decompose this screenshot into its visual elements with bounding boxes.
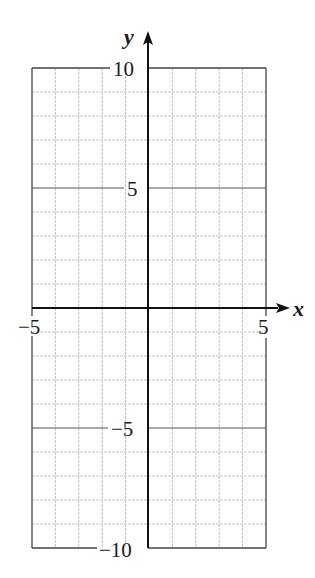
x-axis-label: x <box>292 296 304 321</box>
coordinate-plane: y x 10 5 −5 −10 −5 5 <box>0 0 315 578</box>
x-tick-5: 5 <box>258 315 269 339</box>
axes <box>32 42 278 548</box>
y-tick-neg5: −5 <box>111 417 133 441</box>
x-tick-neg5: −5 <box>18 315 40 339</box>
y-axis-label: y <box>121 24 134 49</box>
x-axis-arrow-icon <box>276 303 290 313</box>
y-tick-5: 5 <box>127 177 138 201</box>
y-tick-10: 10 <box>113 57 134 81</box>
y-tick-neg10: −10 <box>99 538 132 562</box>
